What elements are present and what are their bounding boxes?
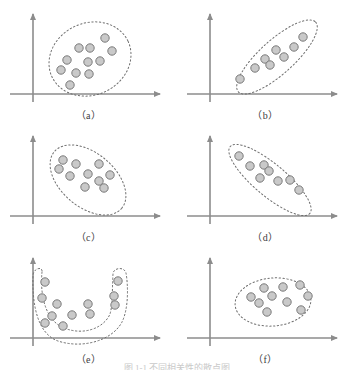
- data-point: [106, 171, 114, 179]
- data-point: [256, 174, 264, 182]
- data-point: [268, 292, 276, 300]
- figure-caption: 图 1-1 不同相关性的散点图: [0, 361, 354, 370]
- data-point: [75, 44, 83, 52]
- panel-label-b: （b）: [177, 107, 354, 122]
- panel-label-d: （d）: [177, 229, 354, 244]
- data-point: [85, 70, 93, 78]
- data-point-group: [235, 152, 303, 194]
- data-point-group: [247, 281, 312, 316]
- data-point: [114, 277, 122, 285]
- data-point: [86, 310, 94, 318]
- data-point: [263, 308, 271, 316]
- cluster-contour: [227, 10, 327, 105]
- data-point: [55, 165, 63, 173]
- data-point: [53, 300, 61, 308]
- data-point: [246, 162, 254, 170]
- data-point: [38, 294, 46, 302]
- data-point: [48, 312, 56, 320]
- data-point: [299, 33, 307, 41]
- figure-root: （a）（b）（c）（d）（e）（f）图 1-1 不同相关性的散点图: [0, 0, 354, 370]
- data-point: [108, 47, 116, 55]
- data-point: [279, 283, 287, 291]
- data-point: [235, 152, 243, 160]
- data-point: [63, 56, 71, 64]
- data-point: [283, 298, 291, 306]
- data-point: [260, 284, 268, 292]
- data-point: [59, 322, 67, 330]
- scatter-panel-a: （a）: [0, 2, 177, 122]
- data-point-group: [57, 34, 116, 89]
- data-point: [66, 81, 74, 89]
- data-point: [236, 75, 244, 83]
- cluster-contour: [37, 131, 139, 229]
- data-point: [84, 58, 92, 66]
- data-point: [247, 293, 255, 301]
- data-point: [304, 292, 312, 300]
- panel-label-a: （a）: [0, 107, 177, 122]
- scatter-panel-f: （f）: [177, 246, 354, 366]
- data-point: [41, 319, 49, 327]
- data-point: [266, 61, 274, 69]
- data-point: [41, 278, 49, 286]
- data-point: [295, 186, 303, 194]
- data-point: [81, 183, 89, 191]
- data-point: [68, 311, 76, 319]
- data-point: [274, 177, 282, 185]
- data-point: [297, 306, 305, 314]
- data-point: [59, 156, 67, 164]
- data-point: [286, 176, 294, 184]
- data-point: [110, 292, 118, 300]
- data-point: [86, 44, 94, 52]
- scatter-panel-b: （b）: [177, 2, 354, 122]
- data-point: [251, 64, 259, 72]
- data-point: [255, 299, 263, 307]
- data-point: [280, 53, 288, 61]
- data-point: [296, 281, 304, 289]
- data-point: [290, 43, 298, 51]
- data-point: [101, 34, 109, 42]
- scatter-panel-c: （c）: [0, 124, 177, 244]
- data-point-group: [236, 33, 307, 83]
- data-point: [111, 301, 119, 309]
- data-point-group: [55, 156, 114, 192]
- data-point: [100, 184, 108, 192]
- data-point: [84, 300, 92, 308]
- panel-label-c: （c）: [0, 229, 177, 244]
- scatter-panel-e: （e）: [0, 246, 177, 366]
- data-point: [57, 66, 65, 74]
- data-point: [95, 160, 103, 168]
- data-point: [265, 167, 273, 175]
- data-point-group: [38, 277, 122, 330]
- data-point: [72, 160, 80, 168]
- scatter-panel-d: （d）: [177, 124, 354, 244]
- data-point: [96, 57, 104, 65]
- data-point: [84, 170, 92, 178]
- data-point: [272, 46, 280, 54]
- cluster-contour: [220, 134, 320, 225]
- data-point: [72, 69, 80, 77]
- data-point: [66, 172, 74, 180]
